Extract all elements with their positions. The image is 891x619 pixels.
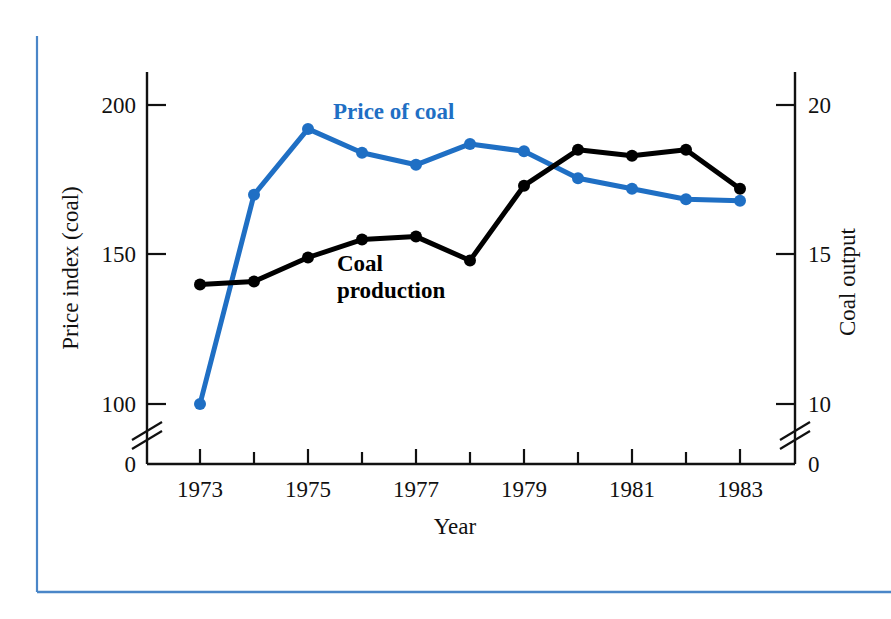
chart-svg: 200 150 100 0 20 15 10 0 1973 1975 1977 … [0, 0, 891, 619]
data-point [194, 398, 206, 410]
x-tick-label-1981: 1981 [609, 477, 655, 502]
x-tick-label-1973: 1973 [177, 477, 223, 502]
data-point [734, 183, 746, 195]
data-point [356, 234, 368, 246]
left-tick-label-150: 150 [102, 242, 137, 267]
data-point [194, 278, 206, 290]
data-point [410, 159, 422, 171]
page-frame [37, 36, 891, 592]
figure-container: 200 150 100 0 20 15 10 0 1973 1975 1977 … [0, 0, 891, 619]
data-point [248, 275, 260, 287]
data-point [734, 195, 746, 207]
x-tick-label-1979: 1979 [501, 477, 547, 502]
left-tick-label-100: 100 [102, 392, 137, 417]
right-tick-label-20: 20 [808, 93, 831, 118]
bottom-axis-ticks [200, 449, 740, 464]
left-axis-ticks [147, 105, 166, 404]
data-point [410, 231, 422, 243]
y-axis-title-right: Coal output [835, 227, 860, 336]
x-axis-title: Year [434, 514, 477, 539]
data-point [680, 144, 692, 156]
data-point [464, 255, 476, 267]
data-point [464, 138, 476, 150]
series-layer [194, 123, 746, 410]
series-label-coal-production-line2: production [337, 278, 445, 303]
right-tick-label-15: 15 [808, 242, 831, 267]
data-point [680, 193, 692, 205]
left-tick-label-200: 200 [102, 93, 137, 118]
data-point [248, 189, 260, 201]
right-axis-ticks [776, 105, 795, 404]
right-tick-label-10: 10 [808, 392, 831, 417]
data-point [302, 252, 314, 264]
y-axis-title-left: Price index (coal) [58, 186, 83, 349]
x-tick-label-1977: 1977 [393, 477, 439, 502]
data-point [626, 183, 638, 195]
data-point [626, 150, 638, 162]
data-point [302, 123, 314, 135]
data-point [356, 147, 368, 159]
series-label-price-of-coal: Price of coal [333, 99, 454, 124]
x-tick-label-1975: 1975 [285, 477, 331, 502]
data-point [572, 144, 584, 156]
data-point [518, 180, 530, 192]
series-label-coal-production-line1: Coal [337, 251, 383, 276]
x-tick-label-1983: 1983 [717, 477, 763, 502]
data-point [572, 172, 584, 184]
axis-lines [147, 72, 795, 464]
right-tick-label-0: 0 [808, 452, 820, 477]
data-point [518, 145, 530, 157]
left-tick-label-0: 0 [125, 452, 137, 477]
